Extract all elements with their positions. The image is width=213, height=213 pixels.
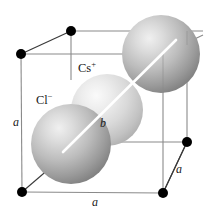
unit-cell-diagram xyxy=(0,0,213,213)
vertex-top-back-left xyxy=(66,26,76,36)
edge-left-vertical xyxy=(21,54,22,192)
radius-pointer-bottom-right xyxy=(163,142,187,193)
anion-label-text: Cl xyxy=(36,93,48,107)
anion-label: Cl− xyxy=(36,94,53,107)
vertex-mid-back-right xyxy=(182,137,192,147)
cation-label-text: Cs xyxy=(78,61,91,75)
vertex-bottom-front-left xyxy=(17,187,27,197)
vertex-top-front-left xyxy=(16,49,26,59)
edge-length-label-bottom: a xyxy=(92,196,98,208)
edge-top-left-receding xyxy=(21,31,71,54)
cation-label: Cs+ xyxy=(78,62,96,75)
body-diagonal-label: b xyxy=(100,117,106,129)
edge-bottom-front xyxy=(22,192,163,193)
cation-charge-text: + xyxy=(91,59,96,69)
edge-length-label-right: a xyxy=(176,163,182,175)
edge-length-label-left: a xyxy=(13,116,19,128)
anion-charge-text: − xyxy=(48,91,53,101)
cscl-unit-cell-figure: Cs+ Cl− a a a b xyxy=(0,0,213,213)
vertex-bottom-front-right xyxy=(158,188,168,198)
